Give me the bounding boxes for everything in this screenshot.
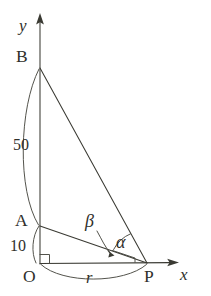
beta-pointer-arrow bbox=[97, 231, 115, 258]
y-axis-label: y bbox=[17, 16, 27, 35]
segment-AP bbox=[40, 226, 147, 263]
angle-label-alpha: α bbox=[116, 232, 126, 252]
point-label-B: B bbox=[16, 46, 28, 66]
diagram-canvas: B A O P 50 10 r β α y x bbox=[0, 0, 211, 296]
right-angle-square-O bbox=[40, 255, 50, 264]
beta-pointer-curve bbox=[97, 231, 110, 253]
x-axis-line bbox=[40, 263, 170, 264]
right-angle-mark-at-origin bbox=[40, 255, 50, 264]
length-label-OP: r bbox=[86, 268, 93, 287]
arc-OA bbox=[33, 226, 39, 263]
point-label-A: A bbox=[15, 210, 28, 230]
x-axis-label: x bbox=[179, 265, 188, 284]
point-label-O: O bbox=[23, 266, 36, 286]
measure-arc-OA bbox=[33, 226, 39, 263]
length-label-OA: 10 bbox=[10, 237, 26, 254]
x-axis bbox=[40, 259, 179, 267]
point-label-P: P bbox=[144, 266, 154, 286]
angle-label-beta: β bbox=[84, 211, 94, 231]
geometry-diagram: B A O P 50 10 r β α y x bbox=[0, 0, 211, 296]
measure-arc-OP bbox=[41, 265, 147, 280]
arc-OP bbox=[41, 265, 147, 280]
length-label-AB: 50 bbox=[13, 136, 29, 153]
